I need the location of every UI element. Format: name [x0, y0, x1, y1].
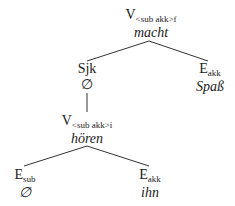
edge-vinf-esub — [24, 146, 87, 166]
node-vinf: V<sub akk>i hören — [62, 114, 113, 146]
node-vinf-word: hören — [62, 132, 113, 146]
edge-root-eakk — [149, 41, 208, 61]
node-eakk-top: Eakk Spaß — [196, 62, 224, 94]
node-sjk-category: Sjk — [78, 62, 97, 76]
node-eakk-bottom-word: ihn — [139, 186, 161, 200]
node-esub-category: Esub — [14, 168, 35, 184]
node-eakk-top-word: Spaß — [196, 80, 224, 94]
node-sjk-word: ∅ — [78, 78, 97, 92]
node-sjk: Sjk ∅ — [78, 62, 97, 92]
node-root: V<sub akk>f macht — [125, 8, 176, 40]
node-eakk-bottom-category: Eakk — [139, 168, 161, 184]
node-root-word: macht — [125, 26, 176, 40]
node-esub-word: ∅ — [14, 186, 35, 200]
node-vinf-category: V<sub akk>i — [62, 114, 113, 130]
node-esub: Esub ∅ — [14, 168, 35, 200]
edge-root-sjk — [87, 41, 149, 61]
node-eakk-bottom: Eakk ihn — [139, 168, 161, 200]
edge-vinf-eakk — [87, 146, 149, 166]
node-eakk-top-category: Eakk — [196, 62, 224, 78]
node-root-category: V<sub akk>f — [125, 8, 176, 24]
